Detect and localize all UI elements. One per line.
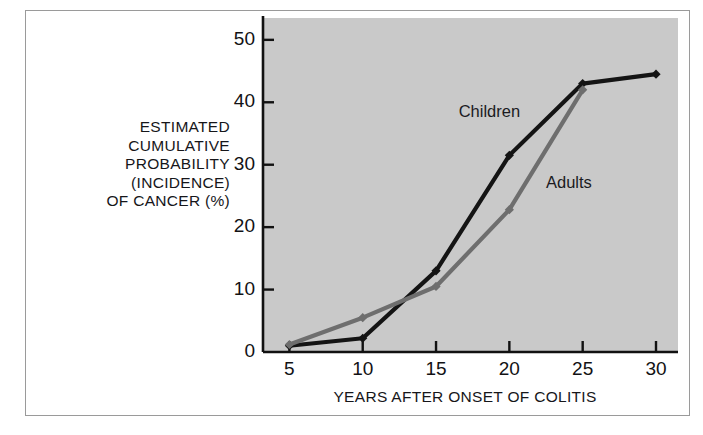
y-axis-title-line-5: OF CANCER (%) [30,192,230,211]
x-tick-label-15: 15 [416,358,456,380]
x-tick-label-30: 30 [636,358,676,380]
y-tick-label-0: 0 [211,340,255,362]
y-tick-label-20: 20 [211,215,255,237]
series-label-children: Children [459,102,520,121]
figure-frame [25,10,690,416]
series-label-adults: Adults [546,173,592,192]
y-tick-label-40: 40 [211,90,255,112]
y-axis-title: ESTIMATED CUMULATIVE PROBABILITY (INCIDE… [30,118,230,211]
x-tick-label-25: 25 [563,358,603,380]
x-axis-title: YEARS AFTER ONSET OF COLITIS [245,388,685,406]
y-axis-title-line-4: (INCIDENCE) [30,174,230,193]
chart-figure: ESTIMATED CUMULATIVE PROBABILITY (INCIDE… [0,0,703,435]
y-tick-label-10: 10 [211,278,255,300]
x-tick-label-10: 10 [343,358,383,380]
x-tick-label-20: 20 [489,358,529,380]
y-axis-title-line-3: PROBABILITY [30,155,230,174]
y-tick-label-50: 50 [211,28,255,50]
y-axis-title-line-1: ESTIMATED [30,118,230,137]
x-tick-label-5: 5 [269,358,309,380]
y-tick-label-30: 30 [211,153,255,175]
y-axis-title-line-2: CUMULATIVE [30,137,230,156]
